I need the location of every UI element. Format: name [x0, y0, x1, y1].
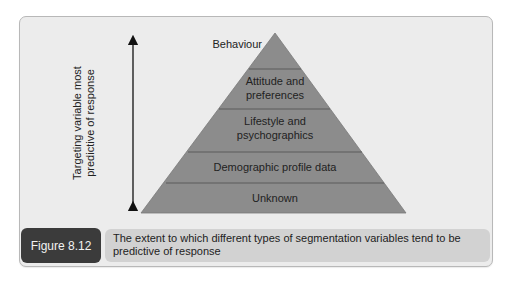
tier-label-unknown: Unknown	[252, 192, 298, 204]
axis-label: Targeting variable most predictive of re…	[71, 33, 97, 213]
figure-number: Figure 8.12	[21, 228, 101, 263]
tier-label-behaviour: Behaviour	[212, 38, 262, 50]
axis-label-line1: Targeting variable most	[71, 33, 84, 213]
tier-label-attitude: Attitude and	[246, 75, 305, 87]
figure-caption: The extent to which different types of s…	[105, 229, 490, 262]
tier-label-attitude-2: preferences	[246, 89, 305, 101]
tier-label-lifestyle-2: psychographics	[237, 129, 314, 141]
axis-label-line2: predictive of response	[84, 33, 97, 213]
tier-label-lifestyle: Lifestyle and	[244, 115, 306, 127]
caption-row: Figure 8.12 The extent to which differen…	[21, 228, 491, 263]
tier-label-demographic: Demographic profile data	[214, 161, 338, 173]
